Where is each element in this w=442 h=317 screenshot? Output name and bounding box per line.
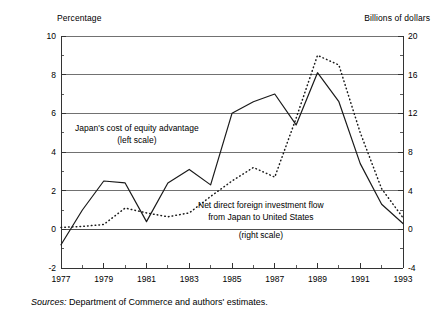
y-tick-label: -2: [48, 263, 56, 273]
x-tick-label: 1983: [180, 274, 199, 284]
y-tick-label: 4: [51, 147, 56, 157]
x-tick-label: 1979: [94, 274, 113, 284]
source-label: Sources:: [31, 297, 67, 307]
plot-area: -20246810 -4048121620 197719791981198319…: [61, 36, 403, 268]
y-tick-label: 0: [51, 224, 56, 234]
x-tick-label: 1977: [52, 274, 71, 284]
y2-tick-label: 8: [408, 147, 413, 157]
x-tick-label: 1993: [394, 274, 413, 284]
x-tick-label: 1989: [308, 274, 327, 284]
left-axis-title: Percentage: [57, 13, 101, 23]
right-axis-title: Billions of dollars: [364, 13, 430, 23]
annotation-series-1: Japan's cost of equity advantage (left s…: [75, 122, 199, 146]
source-body: Department of Commerce and authors' esti…: [67, 297, 268, 307]
annotation-series-2-line-1: Net direct foreign investment flow: [198, 199, 324, 211]
y-tick-label: 6: [51, 108, 56, 118]
source-note: Sources: Department of Commerce and auth…: [31, 297, 268, 307]
y2-tick-label: 0: [408, 224, 413, 234]
x-tick-label: 1985: [223, 274, 242, 284]
annotation-series-1-line-2: (left scale): [75, 134, 199, 146]
chart-canvas: [61, 36, 403, 268]
annotation-series-2: Net direct foreign investment flow from …: [198, 199, 324, 223]
y2-tick-label: 16: [408, 70, 417, 80]
annotation-series-2-scale: (right scale): [239, 229, 283, 241]
y-tick-label: 2: [51, 186, 56, 196]
x-tick-label: 1987: [265, 274, 284, 284]
annotation-series-2-line-2: from Japan to United States: [198, 211, 324, 223]
y-tick-label: 8: [51, 70, 56, 80]
annotation-series-2-line-3: (right scale): [239, 229, 283, 241]
y2-tick-label: 12: [408, 108, 417, 118]
y-tick-label: 10: [47, 31, 56, 41]
annotation-series-1-line-1: Japan's cost of equity advantage: [75, 122, 199, 134]
x-tick-label: 1991: [351, 274, 370, 284]
chart-figure: Percentage Billions of dollars -20246810…: [0, 0, 442, 317]
y2-tick-label: -4: [408, 263, 416, 273]
y2-tick-label: 4: [408, 186, 413, 196]
x-tick-label: 1981: [137, 274, 156, 284]
y2-tick-label: 20: [408, 31, 417, 41]
